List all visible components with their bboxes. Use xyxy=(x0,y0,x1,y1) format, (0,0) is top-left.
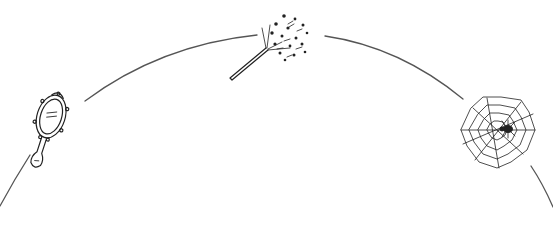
arc-segment-right-upper xyxy=(325,36,463,99)
connecting-arc xyxy=(0,35,553,207)
magic-wand-icon xyxy=(230,14,308,80)
illustration xyxy=(0,0,553,237)
arc-segment-left-upper xyxy=(85,35,257,101)
arc-segment-right-lower xyxy=(531,166,553,207)
sparkles xyxy=(270,14,308,61)
spider-web-icon xyxy=(461,97,535,168)
arc-segment-left-lower xyxy=(0,155,30,206)
